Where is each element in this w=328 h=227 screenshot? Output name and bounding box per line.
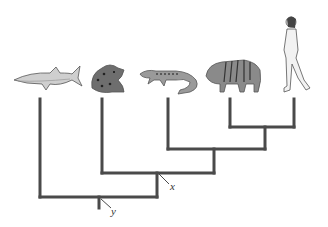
tree-branches (40, 99, 294, 208)
svg-text:x: x (169, 180, 175, 192)
lizard-icon (140, 70, 197, 94)
frog-icon (92, 65, 124, 93)
svg-text:y: y (110, 205, 116, 217)
human-icon (284, 17, 310, 93)
node-y-label: y (101, 199, 116, 217)
tiger-icon (206, 60, 261, 92)
node-x-label: x (159, 174, 175, 192)
shark-icon (14, 66, 82, 90)
cladogram: x y (0, 0, 328, 227)
